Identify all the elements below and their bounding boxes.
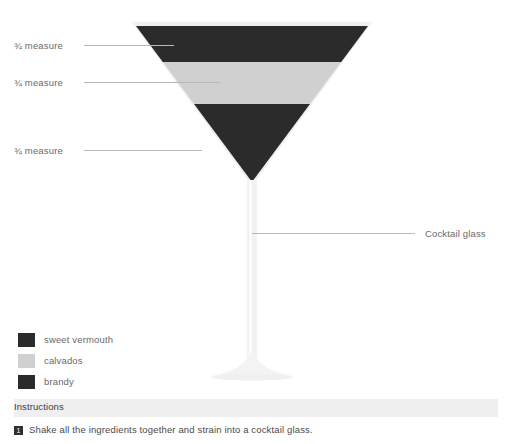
instruction-step: 1 Shake all the ingredients together and… bbox=[14, 425, 313, 436]
measure-callout-label-3: ¾ measure bbox=[14, 146, 63, 156]
legend-label-sweet-vermouth: sweet vermouth bbox=[44, 335, 113, 345]
legend-swatch-calvados bbox=[18, 354, 35, 368]
measure-callout-label-1: ¾ measure bbox=[14, 41, 63, 51]
measure-callout-label-2: ¾ measure bbox=[14, 78, 63, 88]
instructions-header-band bbox=[14, 399, 498, 417]
measure-leader-line-2 bbox=[84, 82, 220, 83]
instruction-step-number: 1 bbox=[14, 426, 23, 435]
liquid-layer-brandy bbox=[120, 104, 392, 182]
legend-swatch-brandy bbox=[18, 375, 35, 389]
cocktail-glass-callout-label: Cocktail glass bbox=[425, 229, 486, 239]
legend-label-brandy: brandy bbox=[44, 377, 74, 387]
measure-leader-line-1 bbox=[84, 45, 174, 46]
instructions-title: Instructions bbox=[14, 402, 64, 412]
instructions-divider bbox=[14, 417, 498, 418]
measure-leader-line-3 bbox=[84, 150, 202, 151]
instructions-section: Instructions 1 Shake all the ingredients… bbox=[0, 399, 512, 444]
instruction-step-text: Shake all the ingredients together and s… bbox=[29, 425, 313, 436]
glass-base-ellipse bbox=[211, 374, 293, 381]
glass-stem-highlight bbox=[249, 180, 252, 372]
legend-item-calvados: calvados bbox=[18, 352, 198, 370]
legend-item-brandy: brandy bbox=[18, 373, 198, 391]
liquid-layer-sweet-vermouth bbox=[120, 26, 392, 62]
cocktail-diagram: ¾ measure ¾ measure ¾ measure Cocktail g… bbox=[0, 0, 512, 396]
legend-label-calvados: calvados bbox=[44, 356, 83, 366]
cocktail-glass-leader-line bbox=[252, 233, 415, 234]
legend-item-sweet-vermouth: sweet vermouth bbox=[18, 331, 198, 349]
legend: sweet vermouth calvados brandy bbox=[18, 331, 198, 394]
liquid-layer-calvados bbox=[120, 62, 392, 104]
legend-swatch-sweet-vermouth bbox=[18, 333, 35, 347]
glass-foot bbox=[212, 352, 292, 376]
